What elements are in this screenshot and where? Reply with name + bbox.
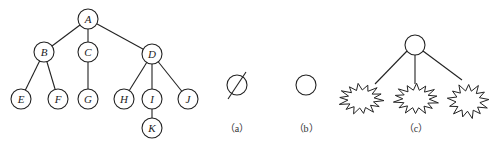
- subtree-starburst: [339, 83, 384, 114]
- svg-text:F: F: [54, 93, 62, 105]
- tree-node-c: C: [78, 42, 98, 62]
- svg-text:A: A: [84, 13, 92, 25]
- tree-node-d: D: [142, 44, 162, 64]
- tree-node-j: J: [178, 89, 198, 109]
- empty-tree-symbol: [227, 72, 247, 99]
- tree-node-f: F: [48, 89, 68, 109]
- svg-text:K: K: [147, 122, 156, 134]
- subtree-starburst: [447, 85, 489, 119]
- caption-b: （b）: [294, 123, 319, 134]
- svg-text:G: G: [84, 93, 92, 105]
- tree-node-b: B: [34, 42, 54, 62]
- caption-c: （c）: [404, 123, 428, 134]
- root-node: [405, 35, 425, 55]
- svg-text:H: H: [119, 93, 129, 105]
- tree-node-k: K: [142, 118, 162, 138]
- root-with-subtrees: [339, 35, 489, 119]
- tree-node-e: E: [11, 89, 31, 109]
- tree-edges: [21, 19, 188, 128]
- svg-text:B: B: [41, 46, 48, 58]
- tree-figure: ABCDEFGHIJK （a） （b） （c）: [0, 0, 503, 147]
- single-node: [296, 75, 316, 95]
- svg-text:D: D: [147, 48, 156, 60]
- subtree-starburst: [393, 83, 438, 113]
- tree-node-a: A: [78, 9, 98, 29]
- tree-node-i: I: [142, 89, 162, 109]
- svg-text:E: E: [17, 93, 25, 105]
- tree-node-h: H: [114, 89, 134, 109]
- tree-node-g: G: [78, 89, 98, 109]
- subtree-shapes: [339, 83, 489, 118]
- caption-a: （a）: [225, 123, 249, 134]
- svg-text:C: C: [84, 46, 92, 58]
